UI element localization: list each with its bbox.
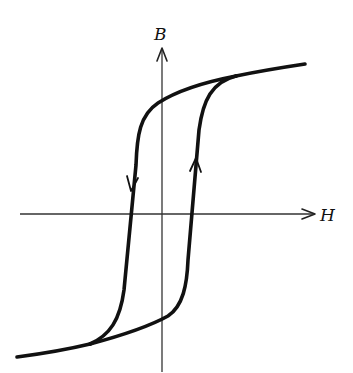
descending-branch bbox=[90, 76, 236, 344]
b-axis-label: B bbox=[153, 24, 167, 44]
ascending-branch bbox=[90, 76, 236, 344]
lower-saturation-tail bbox=[17, 344, 90, 357]
h-axis-label: H bbox=[319, 205, 336, 225]
upper-saturation-tail bbox=[236, 64, 305, 76]
hysteresis-diagram: B H bbox=[0, 0, 353, 373]
